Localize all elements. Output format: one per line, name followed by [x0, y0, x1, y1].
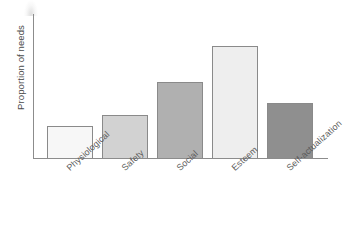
bar-social[interactable] — [157, 82, 203, 158]
bar-chart: Proportion of needs Physiological Safety… — [0, 0, 347, 239]
plot-area — [33, 14, 328, 158]
bar-esteem[interactable] — [212, 46, 258, 158]
y-axis-title: Proportion of needs — [15, 8, 26, 128]
